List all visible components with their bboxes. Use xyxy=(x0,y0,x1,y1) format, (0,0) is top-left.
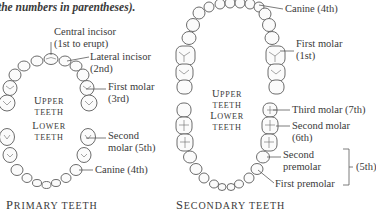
label-third-molar: Third molar (7th) xyxy=(292,104,365,115)
label-lateral-incisor-order: (2nd) xyxy=(90,63,113,74)
label-canine-secondary: Canine (4th) xyxy=(285,3,338,14)
secondary-upper-arch xyxy=(176,0,285,94)
secondary-teeth-title: SECONDARY TEETH xyxy=(176,198,285,213)
label-premolars-order: (5th) xyxy=(356,161,376,172)
label-canine-primary: Canine (4th) xyxy=(95,164,148,175)
label-second-molar-primary: Second xyxy=(108,130,139,141)
label-first-molar-secondary-order: (1st) xyxy=(296,50,315,61)
secondary-lower-teeth-label: LOWER TEETH xyxy=(207,110,247,133)
label-second-molar-secondary: Second molar xyxy=(292,120,350,131)
label-first-molar-secondary: First molar xyxy=(296,38,342,49)
label-second-premolar: Second xyxy=(283,149,314,160)
label-second-molar-primary-order: molar (5th) xyxy=(108,142,156,153)
label-first-premolar: First premolar xyxy=(275,178,335,189)
secondary-upper-teeth-label: UPPER TEETH xyxy=(207,88,247,111)
label-lateral-incisor: Lateral incisor xyxy=(90,51,151,62)
label-central-incisor: Central incisor xyxy=(54,26,116,37)
label-first-molar-primary-order: (3rd) xyxy=(108,93,129,104)
primary-teeth-title: PRIMARY TEETH xyxy=(6,198,98,213)
label-second-molar-secondary-order: (6th) xyxy=(292,132,312,143)
primary-lower-teeth-label: LOWER TEETH xyxy=(29,120,69,143)
label-central-incisor-order: (1st to erupt) xyxy=(54,38,108,49)
primary-upper-teeth-label: UPPER TEETH xyxy=(29,95,69,118)
label-second-premolar-2: premolar xyxy=(283,161,321,172)
label-first-molar-primary: First molar xyxy=(108,81,154,92)
